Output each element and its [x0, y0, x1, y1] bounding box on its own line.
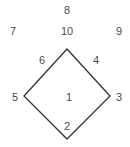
position-label-left-field: 7 — [10, 26, 16, 37]
position-label-right-field: 9 — [116, 26, 122, 37]
position-label-center-field: 8 — [64, 5, 70, 16]
position-label-first-base: 3 — [116, 92, 122, 103]
position-label-third-base: 5 — [12, 92, 18, 103]
position-label-catcher: 2 — [64, 121, 70, 132]
position-label-second-base: 4 — [93, 55, 99, 66]
position-label-pitcher: 1 — [66, 92, 72, 103]
baseball-field-diagram: 8 7 10 9 6 4 5 1 3 2 — [0, 0, 130, 147]
position-label-shortstop: 6 — [39, 55, 45, 66]
position-label-short-fielder: 10 — [61, 26, 73, 37]
